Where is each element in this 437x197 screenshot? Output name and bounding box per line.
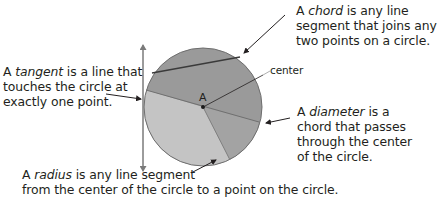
center-label: center <box>270 64 303 76</box>
center-point <box>201 105 205 109</box>
diameter-label-prefix: A <box>297 104 309 119</box>
chord-label-line3: two points on a circle. <box>296 33 437 48</box>
diameter-label: A diameter is a chord that passes throug… <box>297 104 412 164</box>
tangent-label-line2: touches the circle at <box>3 79 142 94</box>
chord-label-line2: segment that joins any <box>296 18 437 33</box>
diameter-term: diameter <box>309 104 364 119</box>
chord-label: A chord is any line segment that joins a… <box>296 3 437 48</box>
diameter-arrow <box>266 118 290 123</box>
tangent-label-suffix: is a line that <box>63 64 142 79</box>
point-a-label: A <box>199 92 206 104</box>
chord-term: chord <box>308 3 343 18</box>
tangent-label: A tangent is a line that touches the cir… <box>3 64 142 109</box>
diameter-label-suffix: is a <box>365 104 390 119</box>
diameter-label-line3: through the center <box>297 134 412 149</box>
tangent-label-line3: exactly one point. <box>3 94 142 109</box>
chord-arrow <box>244 15 285 53</box>
chord-label-prefix: A <box>296 3 308 18</box>
diameter-label-line2: chord that passes <box>297 119 412 134</box>
radius-term: radius <box>34 167 72 182</box>
tangent-term: tangent <box>15 64 63 79</box>
radius-label-prefix: A <box>22 167 34 182</box>
radius-label-line2: from the center of the circle to a point… <box>22 182 338 197</box>
radius-label-suffix: is any line segment <box>72 167 195 182</box>
chord-label-suffix: is any line <box>343 3 409 18</box>
tangent-label-prefix: A <box>3 64 15 79</box>
radius-label: A radius is any line segment from the ce… <box>22 167 338 197</box>
diameter-label-line4: of the circle. <box>297 149 412 164</box>
